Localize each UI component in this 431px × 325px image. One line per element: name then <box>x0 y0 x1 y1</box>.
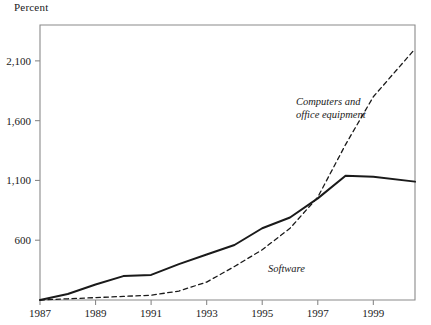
x-axis-tick-label: 1991 <box>140 307 162 319</box>
y-axis-tick-label: 1,100 <box>6 174 31 186</box>
plot-frame <box>40 25 415 300</box>
x-axis-tick-label: 1999 <box>362 307 385 319</box>
computers-and-office-equipment-label: Computers andoffice equipment <box>296 96 367 120</box>
x-axis-tick-label: 1987 <box>29 307 52 319</box>
x-axis-tick-label: 1997 <box>307 307 330 319</box>
x-axis-tick-label: 1989 <box>85 307 108 319</box>
series-line-computers-and-office-equipment <box>40 49 415 300</box>
y-axis-tick-label: 1,600 <box>6 115 31 127</box>
series-line-software <box>40 176 415 300</box>
chart-figure: Percent 6001,1001,6002,10019871989199119… <box>0 0 431 325</box>
x-axis-tick-label: 1993 <box>196 307 219 319</box>
software-label: Software <box>268 263 305 274</box>
line-chart-plot: 6001,1001,6002,1001987198919911993199519… <box>0 0 431 325</box>
y-axis-tick-label: 600 <box>15 234 32 246</box>
y-axis-tick-label: 2,100 <box>6 55 31 67</box>
x-axis-tick-label: 1995 <box>251 307 274 319</box>
